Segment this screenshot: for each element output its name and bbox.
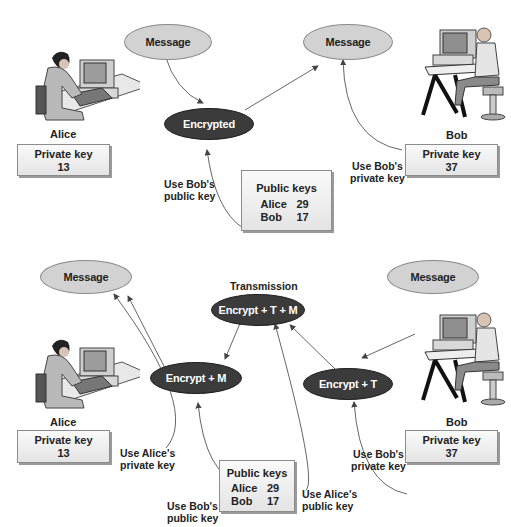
private-key-value: 37 [406,447,497,460]
public-key-row-alice: Alice 29 [220,482,294,495]
private-key-value: 13 [18,161,109,174]
public-keys-box-top: Public keys Alice 29 Bob 17 [241,170,332,231]
private-key-value: 37 [406,161,497,174]
alice-name-bottom: Alice [50,416,76,428]
message-node-bottom-left: Message [40,260,132,294]
transmission-label: Transmission [230,280,298,292]
use-alices-private-key-label: Use Alice's private key [120,447,175,471]
bob-private-key-box-bottom: Private key 37 [405,430,498,463]
bob-computer-illustration-bottom [395,310,510,413]
alice-computer-illustration-bottom [22,334,140,410]
private-key-label: Private key [406,148,497,161]
use-bobs-public-key-label-top: Use Bob's public key [164,178,215,202]
private-key-label: Private key [18,148,109,161]
use-bobs-public-key-label-bottom: Use Bob's public key [167,500,218,524]
encrypted-node: Encrypted [164,108,254,140]
public-keys-title: Public keys [220,467,294,480]
public-keys-box-bottom: Public keys Alice 29 Bob 17 [219,460,295,512]
private-key-value: 13 [18,447,109,460]
private-key-label: Private key [18,434,109,447]
public-key-row-bob: Bob 17 [242,211,331,224]
message-node-bottom-right: Message [387,260,479,294]
alice-computer-illustration [22,46,140,122]
encrypt-t-node: Encrypt + T [303,368,393,400]
use-alices-public-key-label: Use Alice's public key [302,488,357,512]
bob-name-bottom: Bob [446,416,467,428]
encrypt-t-m-node: Encrypt + T + M [211,294,305,326]
public-key-row-bob: Bob 17 [220,495,294,508]
alice-private-key-box-top: Private key 13 [17,144,110,176]
use-bobs-private-key-label-top: Use Bob's private key [350,160,405,184]
message-node-top-right: Message [303,24,393,60]
use-bobs-private-key-label-bottom: Use Bob's private key [351,448,406,472]
bob-name-top: Bob [446,129,467,141]
alice-private-key-box-bottom: Private key 13 [17,430,110,463]
public-key-row-alice: Alice 29 [242,198,331,211]
public-keys-title: Public keys [242,182,331,195]
private-key-label: Private key [406,434,497,447]
bob-private-key-box-top: Private key 37 [405,144,498,176]
bob-computer-illustration [395,25,510,128]
encrypt-m-node: Encrypt + M [150,362,242,394]
alice-name-top: Alice [50,128,76,140]
